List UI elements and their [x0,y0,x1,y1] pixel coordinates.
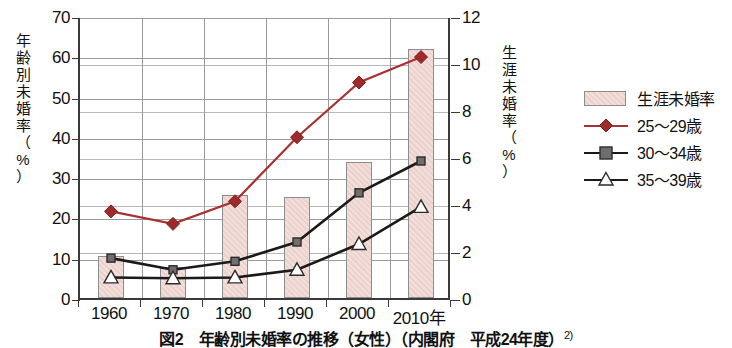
legend-marker-square [600,147,612,159]
legend-label: 30〜34歳 [637,140,702,164]
right-axis-tick-mark [451,65,460,66]
left-axis-tick-label: 10 [30,250,70,270]
line-path [111,57,421,224]
right-axis-tick-label: 8 [462,102,492,122]
legend: 生涯未婚率25〜29歳30〜34歳35〜39歳 [584,86,715,194]
right-axis-tick-mark [451,300,460,301]
right-axis-title-char: 生 [500,44,518,61]
legend-key-triangle [584,171,628,188]
legend-marker-triangle [599,172,613,185]
x-axis-tick-label: 1990 [277,304,313,324]
left-axis-tick-label: 50 [30,89,70,109]
figure-caption-reference: 2) [564,329,573,341]
data-point-marker-triangle [414,200,428,212]
legend-item[interactable]: 35〜39歳 [584,167,715,191]
data-point-marker-square [107,254,115,262]
right-axis-tick-label: 2 [462,243,492,263]
right-axis-tick-label: 6 [462,149,492,169]
right-axis-unit-open: （ [500,129,518,146]
right-axis-tick-label: 0 [462,290,492,310]
legend-key-bar [584,90,628,107]
legend-marker [595,169,617,191]
x-axis-tick-mark [450,300,451,307]
left-axis-tick-label: 70 [30,8,70,28]
left-axis-tick-label: 60 [30,48,70,68]
legend-item[interactable]: 生涯未婚率 [584,86,715,110]
data-point-marker-square [293,238,301,246]
data-point-marker-square [231,257,239,265]
x-axis-tick-mark [78,300,79,307]
legend-key-diamond [584,117,628,134]
x-axis-tick-label: 1970 [153,304,189,324]
right-axis-unit-close: ） [500,163,518,180]
left-axis-unit-pct: % [14,151,32,168]
line-path [111,161,421,270]
legend-marker [595,115,617,137]
right-axis-tick-label: 4 [462,196,492,216]
x-axis-tick-mark [264,300,265,307]
legend-key-square [584,144,628,161]
left-axis-title-char: 年 [14,32,32,49]
line-series [80,18,452,300]
chart-figure: 年 齢 別 未 婚 率 （ % ） 生 涯 未 婚 率 （ % ） 010203… [0,0,732,348]
x-axis-tick-mark [388,300,389,307]
x-axis-tick-mark [326,300,327,307]
figure-caption-text: 図2 年齢別未婚率の推移（女性）（内閣府 平成24年度） [159,331,564,348]
right-axis-tick-mark [451,253,460,254]
data-point-marker-diamond [105,205,118,218]
x-axis-tick-label: 1980 [215,304,251,324]
left-axis-tick-label: 40 [30,129,70,149]
right-axis-title-char: 率 [500,112,518,129]
data-point-marker-diamond [415,51,428,64]
right-axis-tick-label: 12 [462,8,492,28]
legend-bar-swatch [584,91,626,106]
right-axis-tick-label: 10 [462,55,492,75]
legend-marker [595,142,617,164]
left-axis-tick-label: 0 [30,290,70,310]
right-axis-tick-mark [451,206,460,207]
x-axis-tick-mark [202,300,203,307]
right-axis-title-char: 涯 [500,61,518,78]
legend-label: 25〜29歳 [637,113,702,137]
data-point-marker-square [417,157,425,165]
legend-label: 35〜39歳 [637,167,702,191]
right-axis-title-char: 未 [500,78,518,95]
x-axis-tick-label: 2000 [339,304,375,324]
right-axis-tick-mark [451,159,460,160]
left-axis-tick-label: 20 [30,209,70,229]
right-axis-title-char: 婚 [500,95,518,112]
right-axis-title: 生 涯 未 婚 率 （ % ） [500,44,518,180]
right-axis-unit-pct: % [500,146,518,163]
data-point-marker-diamond [167,217,180,230]
legend-item[interactable]: 30〜34歳 [584,140,715,164]
legend-marker-diamond [600,119,613,132]
data-point-marker-square [355,189,363,197]
x-axis-tick-label: 1960 [91,304,127,324]
right-axis-tick-mark [451,18,460,19]
legend-item[interactable]: 25〜29歳 [584,113,715,137]
plot-area [78,18,450,300]
data-point-marker-triangle [352,237,366,249]
legend-label: 生涯未婚率 [637,86,715,110]
left-axis-title-char: 別 [14,66,32,83]
x-axis-tick-mark [140,300,141,307]
left-axis-tick-label: 30 [30,169,70,189]
figure-caption: 図2 年齢別未婚率の推移（女性）（内閣府 平成24年度）2) [0,326,732,348]
right-axis-tick-mark [451,112,460,113]
